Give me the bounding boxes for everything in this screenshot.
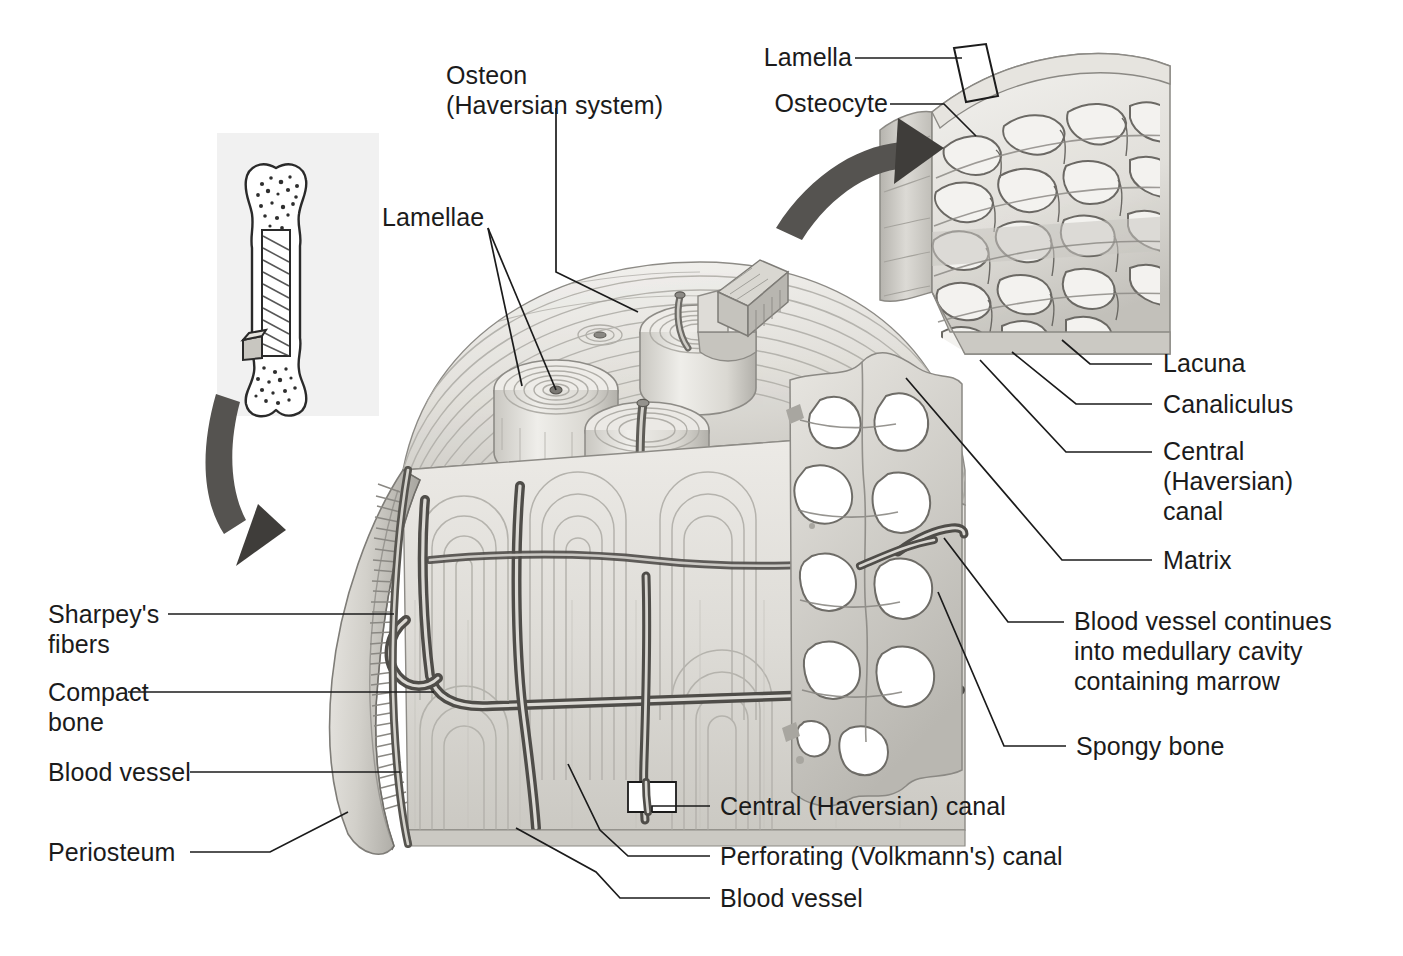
inset-to-main-arrow	[206, 394, 286, 566]
label-osteocyte: Osteocyte	[600, 88, 888, 118]
label-canaliculus: Canaliculus	[1163, 389, 1293, 419]
magnified-osteon-wedge	[880, 44, 1172, 354]
bone-inset	[217, 133, 379, 416]
label-perforating-canal: Perforating (Volkmann's) canal	[720, 841, 1063, 871]
label-sharpeys-fibers: Sharpey's fibers	[48, 599, 159, 659]
label-compact-bone: Compact bone	[48, 677, 149, 737]
label-central-canal-bottom: Central (Haversian) canal	[720, 791, 1006, 821]
spongy-bone-region	[782, 353, 964, 806]
label-blood-vessel-left: Blood vessel	[48, 757, 191, 787]
label-blood-vessel-bottom: Blood vessel	[720, 883, 863, 913]
label-spongy-bone: Spongy bone	[1076, 731, 1224, 761]
label-matrix: Matrix	[1163, 545, 1232, 575]
label-lamella: Lamella	[600, 42, 852, 72]
label-central-canal-right: Central (Haversian) canal	[1163, 436, 1293, 526]
label-lacuna: Lacuna	[1163, 348, 1246, 378]
label-periosteum: Periosteum	[48, 837, 175, 867]
label-lamellae: Lamellae	[382, 202, 484, 232]
label-blood-vessel-medullary: Blood vessel continues into medullary ca…	[1074, 606, 1332, 696]
figure-canvas: Osteon (Haversian system) Lamellae Lamel…	[0, 0, 1403, 956]
long-bone-outline	[243, 164, 306, 416]
